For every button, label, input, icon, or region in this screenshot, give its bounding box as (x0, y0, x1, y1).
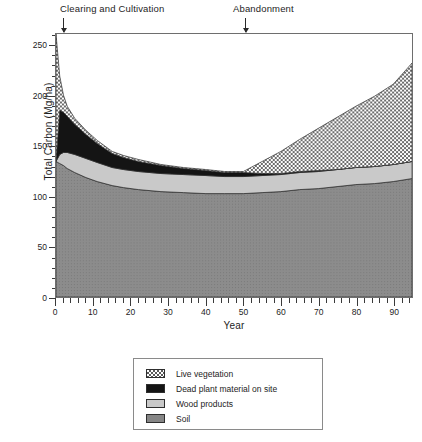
x-axis-tick-label: 80 (345, 307, 369, 317)
x-axis-minor-tick (251, 298, 252, 303)
legend-swatch-icon (146, 369, 165, 378)
annotation-arrow-clearing (63, 18, 64, 32)
x-axis-minor-tick (364, 298, 365, 303)
y-axis-label: Total Carbon (Mg/ha) (43, 72, 54, 192)
x-axis-tick-label: 0 (43, 307, 67, 317)
legend-item: Live vegetation (134, 366, 322, 381)
x-axis-major-tick (55, 298, 56, 306)
x-axis-minor-tick (387, 298, 388, 303)
x-axis-minor-tick (161, 298, 162, 303)
x-axis-label: Year (55, 320, 413, 331)
legend-swatch-icon (146, 414, 165, 423)
x-axis-minor-tick (100, 298, 101, 303)
x-axis-minor-tick (213, 298, 214, 303)
legend-item: Wood products (134, 396, 322, 411)
x-axis-minor-tick (334, 298, 335, 303)
x-axis-minor-tick (341, 298, 342, 303)
legend-item-label: Dead plant material on site (176, 384, 277, 394)
stacked-area-svg (56, 34, 412, 297)
x-axis-minor-tick (63, 298, 64, 303)
x-axis-minor-tick (296, 298, 297, 303)
x-axis-minor-tick (349, 298, 350, 303)
x-axis-major-tick (130, 298, 131, 306)
x-axis-minor-tick (115, 298, 116, 303)
x-axis-major-tick (93, 298, 94, 306)
x-axis-minor-tick (123, 298, 124, 303)
x-axis-minor-tick (379, 298, 380, 303)
y-axis-tick-label: 50 (21, 242, 47, 252)
legend-swatch-icon (146, 384, 165, 393)
x-axis-minor-tick (183, 298, 184, 303)
x-axis-minor-tick (191, 298, 192, 303)
annotation-label-abandonment: Abandonment (233, 3, 294, 14)
annotation-arrow-abandonment (245, 18, 246, 32)
x-axis-minor-tick (221, 298, 222, 303)
x-axis-tick-label: 10 (81, 307, 105, 317)
x-axis-major-tick (281, 298, 282, 306)
x-axis-tick-label: 50 (231, 307, 255, 317)
chart-root: Clearing and Cultivation Abandonment Tot… (0, 0, 422, 442)
x-axis-minor-tick (311, 298, 312, 303)
x-axis-minor-tick (289, 298, 290, 303)
x-axis-tick-label: 30 (156, 307, 180, 317)
x-axis-minor-tick (198, 298, 199, 303)
x-axis-minor-tick (108, 298, 109, 303)
legend-item-label: Soil (176, 414, 190, 424)
x-axis-tick-label: 90 (382, 307, 406, 317)
x-axis-minor-tick (78, 298, 79, 303)
x-axis-minor-tick (402, 298, 403, 303)
x-axis-minor-tick (85, 298, 86, 303)
x-axis-major-tick (243, 298, 244, 306)
x-axis-minor-tick (372, 298, 373, 303)
chart-legend: Live vegetationDead plant material on si… (133, 358, 323, 430)
x-axis-minor-tick (138, 298, 139, 303)
x-axis-minor-tick (326, 298, 327, 303)
y-axis-tick-label: 150 (21, 141, 47, 151)
legend-item: Soil (134, 411, 322, 426)
x-axis-minor-tick (176, 298, 177, 303)
x-axis-major-tick (357, 298, 358, 306)
x-axis-major-tick (394, 298, 395, 306)
legend-item-label: Live vegetation (176, 369, 233, 379)
x-axis-tick-label: 40 (194, 307, 218, 317)
x-axis-minor-tick (409, 298, 410, 303)
x-axis-minor-tick (266, 298, 267, 303)
x-axis-tick-label: 70 (307, 307, 331, 317)
x-axis-minor-tick (304, 298, 305, 303)
legend-item: Dead plant material on site (134, 381, 322, 396)
x-axis-minor-tick (153, 298, 154, 303)
x-axis-minor-tick (259, 298, 260, 303)
x-axis-major-tick (206, 298, 207, 306)
x-axis-minor-tick (236, 298, 237, 303)
y-axis-tick-label: 0 (21, 293, 47, 303)
x-axis-minor-tick (228, 298, 229, 303)
x-axis-minor-tick (274, 298, 275, 303)
x-axis-major-tick (319, 298, 320, 306)
y-axis-tick-label: 250 (21, 40, 47, 50)
x-axis-major-tick (168, 298, 169, 306)
annotation-label-clearing: Clearing and Cultivation (60, 3, 164, 14)
legend-item-label: Wood products (176, 399, 233, 409)
x-axis-tick-label: 60 (269, 307, 293, 317)
legend-swatch-icon (146, 399, 165, 408)
y-axis-tick-label: 200 (21, 91, 47, 101)
x-axis-minor-tick (70, 298, 71, 303)
x-axis-tick-label: 20 (118, 307, 142, 317)
x-axis-minor-tick (145, 298, 146, 303)
plot-area (55, 33, 413, 298)
y-axis-tick-label: 100 (21, 192, 47, 202)
